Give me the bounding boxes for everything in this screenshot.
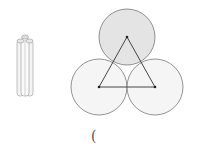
diagram-canvas xyxy=(0,0,203,159)
bundled-rods-figure xyxy=(17,35,33,96)
caption-paren: ( xyxy=(91,128,96,144)
three-circles-figure xyxy=(71,9,183,115)
